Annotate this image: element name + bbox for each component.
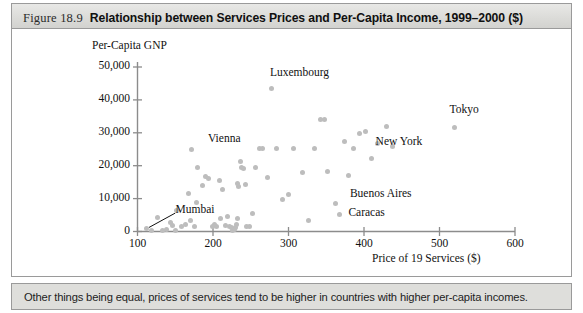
figure-titlebar: Figure 18.9Relationship between Services… (11, 3, 572, 29)
figure-caption-bar: Other things being equal, prices of serv… (11, 283, 572, 310)
figure-title-row: Figure 18.9Relationship between Services… (23, 8, 523, 26)
figure-container: Figure 18.9Relationship between Services… (0, 0, 583, 313)
figure-frame (11, 3, 572, 277)
figure-caption: Other things being equal, prices of serv… (24, 291, 528, 303)
figure-title: Relationship between Services Prices and… (90, 11, 523, 25)
figure-number: Figure 18.9 (23, 11, 83, 25)
